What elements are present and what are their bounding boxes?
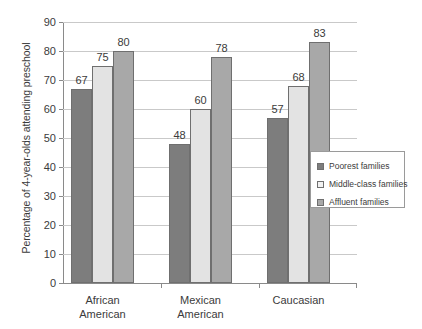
bar-value-label: 83 bbox=[313, 27, 325, 39]
legend-item-middle-class: Middle-class families bbox=[317, 176, 404, 192]
bar bbox=[71, 89, 92, 283]
category-label-line: African bbox=[48, 294, 158, 308]
y-tick-label: 40 bbox=[44, 161, 56, 173]
category-label-line: Mexican bbox=[146, 294, 256, 308]
bar-value-label: 57 bbox=[271, 103, 283, 115]
legend-label: Poorest families bbox=[329, 161, 389, 171]
legend-label: Middle-class families bbox=[329, 179, 407, 189]
x-tick-mark bbox=[259, 283, 260, 288]
bar-value-label: 60 bbox=[194, 94, 206, 106]
y-tick-label: 50 bbox=[44, 132, 56, 144]
legend-swatch-icon bbox=[317, 163, 324, 170]
bar bbox=[190, 109, 211, 283]
y-tick-label: 20 bbox=[44, 219, 56, 231]
bar-chart: Percentage of 4-year-olds attending pres… bbox=[0, 0, 422, 329]
bar bbox=[288, 86, 309, 283]
bar-value-label: 78 bbox=[215, 42, 227, 54]
category-label: Caucasian bbox=[244, 294, 354, 308]
legend-swatch-icon bbox=[317, 181, 324, 188]
bar bbox=[267, 118, 288, 283]
y-tick-label: 60 bbox=[44, 103, 56, 115]
category-label: MexicanAmerican bbox=[146, 294, 256, 321]
category-label: AfricanAmerican bbox=[48, 294, 158, 321]
bar bbox=[92, 66, 113, 284]
legend-swatch-icon bbox=[317, 199, 324, 206]
bar bbox=[113, 51, 134, 283]
bar-value-label: 75 bbox=[96, 51, 108, 63]
y-tick-label: 80 bbox=[44, 45, 56, 57]
bar bbox=[211, 57, 232, 283]
legend-item-affluent: Affluent families bbox=[317, 194, 404, 210]
y-tick-label: 30 bbox=[44, 190, 56, 202]
x-tick-mark bbox=[161, 283, 162, 288]
bar-value-label: 68 bbox=[292, 71, 304, 83]
y-axis-title: Percentage of 4-year-olds attending pres… bbox=[20, 18, 32, 278]
y-tick-label: 10 bbox=[44, 248, 56, 260]
category-label-line: American bbox=[48, 308, 158, 322]
category-label-line: Caucasian bbox=[244, 294, 354, 308]
legend-item-poorest: Poorest families bbox=[317, 158, 404, 174]
bar-value-label: 48 bbox=[173, 129, 185, 141]
y-tick-label: 70 bbox=[44, 74, 56, 86]
legend: Poorest families Middle-class families A… bbox=[310, 151, 405, 208]
y-tick-label: 90 bbox=[44, 16, 56, 28]
legend-label: Affluent families bbox=[329, 197, 389, 207]
x-tick-mark bbox=[356, 283, 357, 288]
category-label-line: American bbox=[146, 308, 256, 322]
bar bbox=[169, 144, 190, 283]
bar-value-label: 80 bbox=[117, 36, 129, 48]
y-tick-label: 0 bbox=[50, 277, 56, 289]
bar-value-label: 67 bbox=[75, 74, 87, 86]
